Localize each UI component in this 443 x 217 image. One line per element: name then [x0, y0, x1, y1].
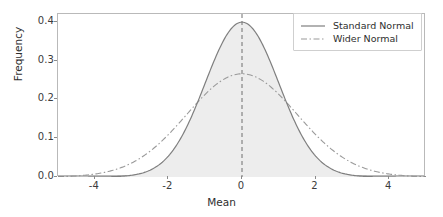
- y-tick-mark: [54, 60, 57, 61]
- y-tick-label: 0.1: [14, 131, 54, 142]
- x-axis-label: Mean: [0, 196, 443, 208]
- x-tick-mark: [94, 176, 95, 179]
- x-tick-mark: [388, 176, 389, 179]
- y-tick-mark: [54, 21, 57, 22]
- x-tick-mark: [167, 176, 168, 179]
- x-tick-mark: [315, 176, 316, 179]
- legend-swatch-solid-icon: [300, 21, 326, 31]
- legend-item-standard-normal[interactable]: Standard Normal: [300, 19, 414, 32]
- x-tick-label: -2: [147, 180, 187, 191]
- chart-legend: Standard Normal Wider Normal: [293, 13, 422, 51]
- legend-item-wider-normal[interactable]: Wider Normal: [300, 32, 414, 45]
- y-tick-label: 0.0: [14, 170, 54, 181]
- x-tick-mark: [241, 176, 242, 179]
- x-tick-label: 0: [221, 180, 261, 191]
- y-tick-mark: [54, 98, 57, 99]
- y-tick-mark: [54, 176, 57, 177]
- legend-swatch-dashdot-icon: [300, 34, 326, 44]
- y-axis-label: Frequency: [12, 4, 24, 104]
- x-tick-label: -4: [74, 180, 114, 191]
- y-tick-mark: [54, 137, 57, 138]
- legend-label-standard-normal: Standard Normal: [333, 19, 414, 32]
- x-tick-label: 2: [295, 180, 335, 191]
- x-tick-label: 4: [368, 180, 408, 191]
- figure-canvas: -4-2024 0.00.10.20.30.4 Mean Frequency S…: [0, 0, 443, 217]
- legend-label-wider-normal: Wider Normal: [333, 32, 398, 45]
